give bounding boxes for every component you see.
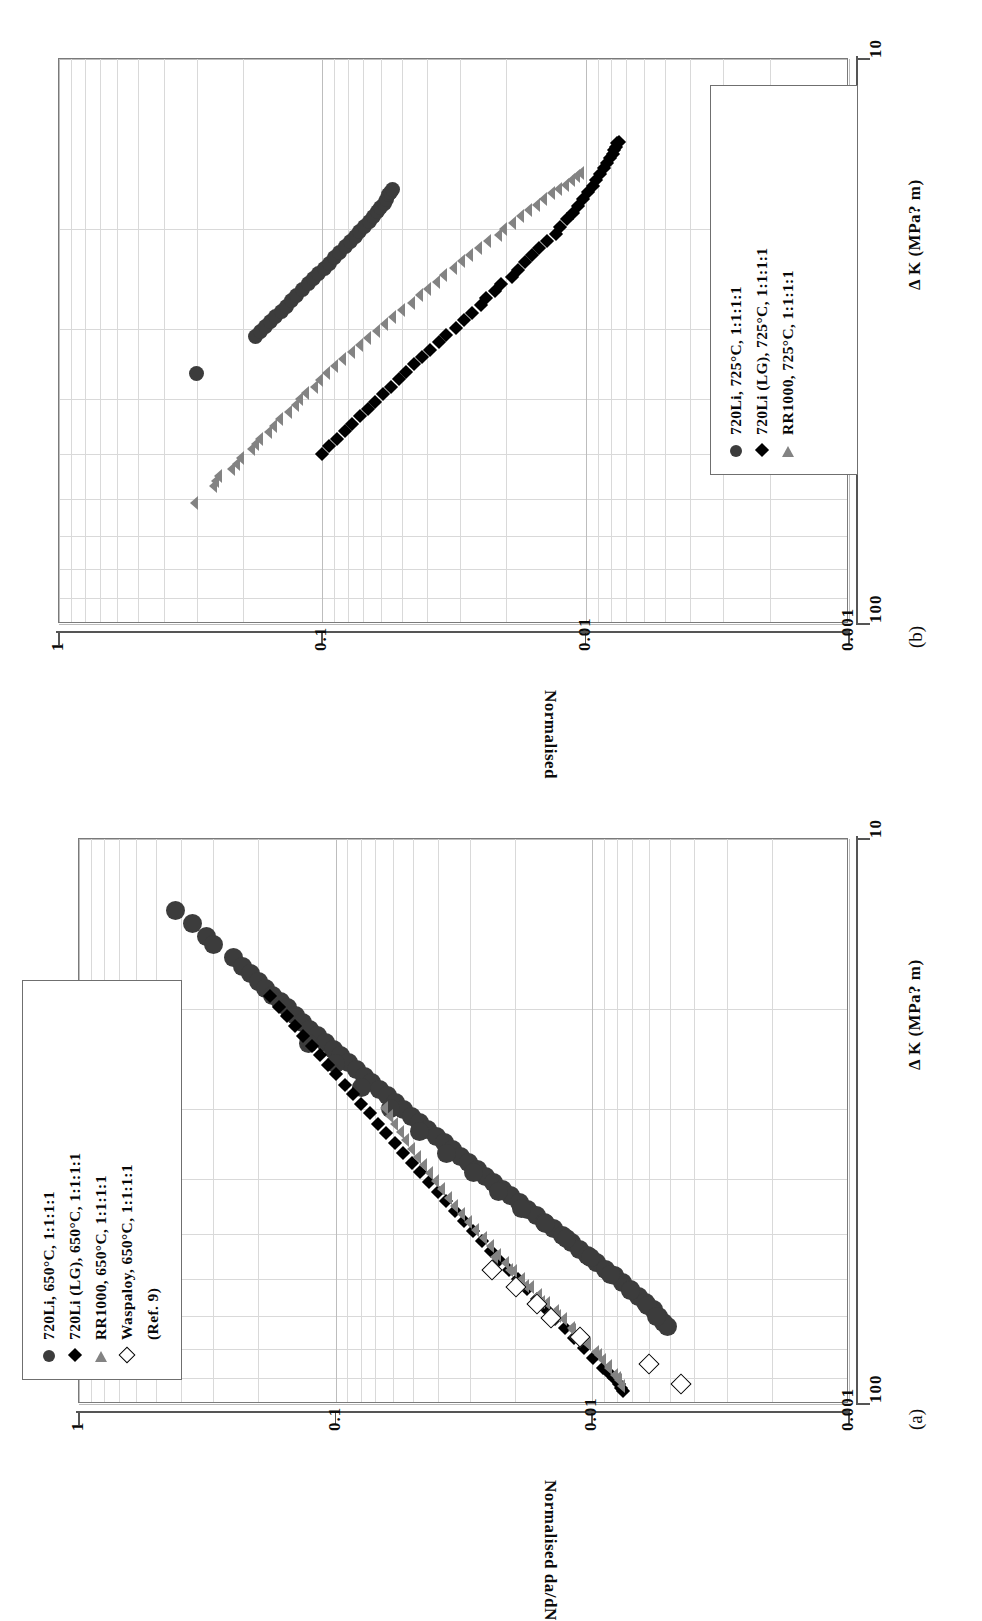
data-point-layer	[79, 839, 847, 1402]
data-point-triangle	[301, 386, 309, 400]
x-axis-title: Δ K (MPa? m)	[905, 179, 925, 290]
y-tick-label: 0.01	[575, 617, 595, 651]
x-axis-tick	[856, 1403, 870, 1405]
data-point-circle	[189, 366, 204, 381]
legend-marker-circle-icon	[40, 1343, 57, 1363]
data-point-triangle	[439, 268, 447, 282]
data-point-triangle	[594, 1348, 602, 1362]
legend-label: 720Li (LG), 725°C, 1:1:1:1	[753, 247, 770, 435]
data-point-diamond	[362, 1106, 376, 1120]
legend-label: RR1000, 725°C, 1:1:1:1	[779, 270, 796, 435]
x-axis-title: Δ K (MPa? m)	[905, 959, 925, 1070]
data-point-open-diamond	[639, 1354, 660, 1375]
y-tick-label: 0.001	[838, 1388, 858, 1431]
data-point-triangle	[380, 317, 388, 331]
y-tick-label: 0.1	[325, 1407, 345, 1431]
data-point-circle	[601, 1265, 620, 1284]
data-point-triangle	[275, 412, 283, 426]
data-point-circle	[581, 1248, 600, 1267]
legend-label: 720Li, 725°C, 1:1:1:1	[727, 286, 744, 435]
x-tick-label: 100	[866, 1375, 886, 1404]
circle-icon	[43, 1350, 55, 1362]
legend-item[interactable]: Waspaloy, 650°C, 1:1:1:1	[118, 1152, 135, 1363]
triangle-icon	[95, 1351, 107, 1362]
data-point-triangle	[457, 254, 465, 268]
x-axis-line	[856, 836, 858, 1405]
data-point-triangle	[397, 303, 405, 317]
triangle-icon	[782, 446, 794, 457]
legend-inner: 720Li, 725°C, 1:1:1:1720Li (LG), 725°C, …	[727, 247, 796, 458]
data-point-triangle	[483, 234, 491, 248]
data-point-circle	[621, 1281, 640, 1300]
legend-marker-diamond-icon	[753, 438, 770, 458]
x-tick-label: 10	[866, 39, 886, 58]
legend-label: 720Li, 650°C, 1:1:1:1	[40, 1191, 57, 1340]
x-tick-label: 100	[866, 595, 886, 624]
gridline-x-major	[59, 624, 847, 625]
gridline-y-major	[849, 839, 850, 1402]
data-point-triangle	[407, 296, 415, 310]
legend-item[interactable]: 720Li, 650°C, 1:1:1:1	[40, 1152, 57, 1363]
legend-marker-triangle-icon	[92, 1343, 109, 1363]
data-point-triangle	[604, 1359, 612, 1373]
data-point-triangle	[465, 248, 473, 262]
legend-box: 720Li, 650°C, 1:1:1:1720Li (LG), 650°C, …	[22, 980, 182, 1380]
y-axis-title: Normalised da/dN	[540, 1480, 560, 1621]
legend-item[interactable]: 720Li (LG), 725°C, 1:1:1:1	[753, 247, 770, 458]
x-tick-label: 10	[866, 819, 886, 838]
data-point-circle	[437, 1144, 456, 1163]
legend-box: 720Li, 725°C, 1:1:1:1720Li (LG), 725°C, …	[710, 85, 858, 475]
x-axis-tick	[856, 838, 870, 840]
panel-label: (b)	[905, 626, 927, 648]
data-point-triangle	[214, 469, 222, 483]
plot-frame	[78, 838, 848, 1403]
diamond-icon	[68, 1348, 82, 1362]
legend-item[interactable]: RR1000, 650°C, 1:1:1:1	[92, 1152, 109, 1363]
data-point-triangle	[499, 222, 507, 236]
panel-b: 1010010.10.010.001Δ K (MPa? m)Normalised…	[0, 0, 982, 780]
y-tick-label: 0.1	[311, 627, 331, 651]
data-point-triangle	[338, 352, 346, 366]
data-point-triangle	[505, 1263, 513, 1277]
legend-label: Waspaloy, 650°C, 1:1:1:1	[118, 1164, 135, 1340]
circle-icon	[730, 445, 742, 457]
data-point-triangle	[190, 496, 198, 510]
data-point-triangle	[474, 241, 482, 255]
legend-item[interactable]: 720Li, 725°C, 1:1:1:1	[727, 247, 744, 458]
diamond-icon	[755, 443, 769, 457]
data-point-triangle	[236, 451, 244, 465]
data-point-triangle	[423, 282, 431, 296]
data-point-circle	[385, 182, 400, 197]
x-axis-tick	[856, 58, 870, 60]
y-tick-label: 0.001	[838, 608, 858, 651]
data-point-triangle	[255, 432, 263, 446]
legend-sublabel: (Ref. 9)	[144, 1152, 161, 1340]
legend-label: 720Li (LG), 650°C, 1:1:1:1	[66, 1152, 83, 1340]
data-point-triangle	[415, 288, 423, 302]
x-axis-tick	[856, 623, 870, 625]
legend-item[interactable]: RR1000, 725°C, 1:1:1:1	[779, 247, 796, 458]
data-point-triangle	[532, 198, 540, 212]
data-point-triangle	[355, 338, 363, 352]
y-axis-line	[76, 1411, 850, 1413]
data-point-open-diamond	[671, 1373, 692, 1394]
data-point-triangle	[330, 359, 338, 373]
data-point-circle	[166, 901, 185, 920]
data-point-circle	[489, 1182, 508, 1201]
legend-marker-diamond-icon	[66, 1343, 83, 1363]
legend-marker-circle-icon	[727, 438, 744, 458]
open-diamond-icon	[119, 1347, 136, 1364]
data-point-circle	[204, 935, 223, 954]
data-point-triangle	[613, 1371, 621, 1385]
gridline-x-major	[79, 1404, 847, 1405]
data-point-circle	[512, 1199, 531, 1218]
data-point-triangle	[576, 166, 584, 180]
legend-marker-open-diamond-icon	[118, 1343, 135, 1363]
legend-marker-triangle-icon	[779, 438, 796, 458]
y-axis-line	[56, 631, 850, 633]
data-point-triangle	[516, 209, 524, 223]
y-tick-label: 0.01	[581, 1397, 601, 1431]
legend-item[interactable]: 720Li (LG), 650°C, 1:1:1:1	[66, 1152, 83, 1363]
panel-a: 1010010.10.010.001Δ K (MPa? m)Normalised…	[0, 780, 982, 1561]
y-tick-label: 1	[48, 642, 68, 652]
